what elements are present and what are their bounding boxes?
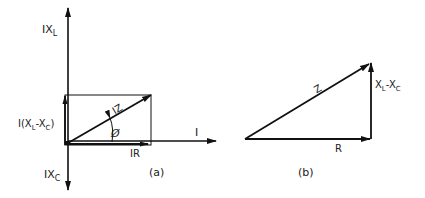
caption-b: (b) xyxy=(298,166,314,179)
iz-label: IZ xyxy=(110,102,124,117)
z-hypotenuse-arrow xyxy=(245,64,369,139)
iz-resultant-arrow xyxy=(68,95,151,143)
origin-point xyxy=(65,141,69,145)
caption-a: (a) xyxy=(149,166,164,179)
current-axis-label: I xyxy=(195,126,198,139)
reactance-label: XL-XC xyxy=(375,79,401,93)
reactive-component-label: I(XL-XC) xyxy=(18,118,54,132)
ir-label: IR xyxy=(130,148,140,159)
phase-angle-label: Ø xyxy=(110,127,120,140)
voltage-phasor-diagram-a: IXL IXC I I(XL-XC) IZ IR Ø (a) xyxy=(18,8,216,190)
phasor-diagrams: IXL IXC I I(XL-XC) IZ IR Ø (a) Z R XL-XC… xyxy=(0,0,425,198)
ixl-label: IXL xyxy=(42,23,58,38)
impedance-triangle-diagram-b: Z R XL-XC (b) xyxy=(245,63,401,179)
ixc-label: IXC xyxy=(44,168,61,183)
r-label: R xyxy=(335,143,342,154)
